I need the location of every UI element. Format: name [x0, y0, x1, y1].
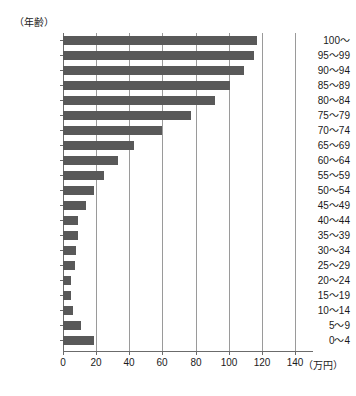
y-tick-label: 5～9	[292, 318, 350, 333]
y-tick-label: 75～79	[292, 108, 350, 123]
bar	[63, 306, 73, 315]
bar	[63, 231, 78, 240]
chart-row: 0～4	[0, 333, 356, 348]
bar	[63, 81, 230, 90]
y-tick-label: 65～69	[292, 138, 350, 153]
chart-row: 60～64	[0, 153, 356, 168]
y-tick-label: 60～64	[292, 153, 350, 168]
bar	[63, 201, 86, 210]
bar	[63, 216, 78, 225]
bar	[63, 336, 94, 345]
y-tick-label: 0～4	[292, 333, 350, 348]
chart-row: 10～14	[0, 303, 356, 318]
x-tick-label: 40	[123, 357, 134, 368]
chart-row: 70～74	[0, 123, 356, 138]
y-tick-label: 15～19	[292, 288, 350, 303]
x-tick-mark	[63, 351, 64, 355]
y-tick-label: 80～84	[292, 93, 350, 108]
x-tick-mark	[262, 351, 263, 355]
bar	[63, 111, 191, 120]
y-tick-label: 55～59	[292, 168, 350, 183]
x-tick-mark	[162, 351, 163, 355]
chart-row: 90～94	[0, 63, 356, 78]
bar	[63, 186, 94, 195]
chart-row: 40～44	[0, 213, 356, 228]
bar	[63, 51, 254, 60]
chart-row: 25～29	[0, 258, 356, 273]
chart-row: 30～34	[0, 243, 356, 258]
chart-row: 15～19	[0, 288, 356, 303]
y-tick-label: 25～29	[292, 258, 350, 273]
x-tick-mark	[196, 351, 197, 355]
x-axis-unit-label: （万円）	[303, 357, 343, 372]
y-tick-label: 20～24	[292, 273, 350, 288]
bar	[63, 96, 215, 105]
bar	[63, 261, 75, 270]
x-tick-label: 20	[90, 357, 101, 368]
bar	[63, 156, 118, 165]
x-tick-mark	[96, 351, 97, 355]
y-tick-label: 35～39	[292, 228, 350, 243]
bar	[63, 141, 134, 150]
chart-row: 85～89	[0, 78, 356, 93]
x-tick-mark	[229, 351, 230, 355]
y-tick-label: 10～14	[292, 303, 350, 318]
x-tick-label: 0	[60, 357, 66, 368]
chart-figure: （年齢） 020406080100120140 100～95～9990～9485…	[0, 0, 356, 396]
chart-row: 35～39	[0, 228, 356, 243]
x-tick-label: 100	[221, 357, 238, 368]
bar	[63, 291, 71, 300]
bar	[63, 276, 71, 285]
chart-row: 50～54	[0, 183, 356, 198]
y-tick-label: 70～74	[292, 123, 350, 138]
y-axis-unit-label: （年齢）	[14, 14, 54, 29]
y-tick-label: 30～34	[292, 243, 350, 258]
x-tick-label: 60	[156, 357, 167, 368]
x-tick-label: 80	[190, 357, 201, 368]
chart-row: 55～59	[0, 168, 356, 183]
x-tick-label: 140	[287, 357, 304, 368]
chart-row: 45～49	[0, 198, 356, 213]
chart-row: 20～24	[0, 273, 356, 288]
chart-row: 80～84	[0, 93, 356, 108]
bar	[63, 171, 104, 180]
bar	[63, 66, 244, 75]
x-tick-mark	[129, 351, 130, 355]
bar	[63, 321, 81, 330]
bar	[63, 36, 257, 45]
chart-row: 65～69	[0, 138, 356, 153]
x-axis-line	[63, 351, 313, 352]
bar	[63, 126, 162, 135]
x-tick-label: 120	[254, 357, 271, 368]
y-tick-label: 95～99	[292, 48, 350, 63]
chart-row: 100～	[0, 33, 356, 48]
y-tick-label: 50～54	[292, 183, 350, 198]
bar	[63, 246, 76, 255]
chart-row: 5～9	[0, 318, 356, 333]
chart-row: 75～79	[0, 108, 356, 123]
y-tick-label: 85～89	[292, 78, 350, 93]
y-tick-label: 90～94	[292, 63, 350, 78]
y-tick-label: 40～44	[292, 213, 350, 228]
x-tick-mark	[295, 351, 296, 355]
y-tick-label: 100～	[292, 33, 350, 48]
y-tick-label: 45～49	[292, 198, 350, 213]
chart-row: 95～99	[0, 48, 356, 63]
